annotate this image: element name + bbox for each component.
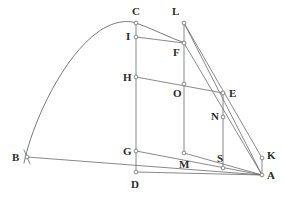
point-label-n: N xyxy=(211,111,219,122)
geometry-canvas xyxy=(0,0,285,197)
vertex-marker-b xyxy=(25,155,29,159)
point-label-k: K xyxy=(267,150,276,161)
point-label-l: L xyxy=(172,6,179,17)
vertex-marker-l xyxy=(182,21,186,25)
point-label-m: M xyxy=(179,159,189,170)
arc-layer xyxy=(24,22,185,163)
geometry-figure: ABCDEFGHIKLMNOS xyxy=(0,0,285,197)
vertex-marker-s xyxy=(221,166,225,170)
point-label-b: B xyxy=(12,152,19,163)
segments-layer xyxy=(27,23,262,175)
point-label-i: I xyxy=(126,31,130,42)
vertex-marker-h xyxy=(134,75,138,79)
point-label-g: G xyxy=(123,146,132,157)
vertex-marker-a xyxy=(260,173,264,177)
point-label-h: H xyxy=(123,72,132,83)
vertex-marker-e xyxy=(221,91,225,95)
point-label-s: S xyxy=(217,153,223,164)
vertex-marker-m xyxy=(182,151,186,155)
vertex-marker-g xyxy=(134,149,138,153)
vertex-marker-k xyxy=(260,156,264,160)
parabolic-arc-B-C-F xyxy=(24,22,185,163)
point-label-d: D xyxy=(131,179,139,190)
segment-G-A xyxy=(136,151,262,175)
vertex-marker-o xyxy=(182,82,186,86)
point-label-e: E xyxy=(229,88,236,99)
point-label-a: A xyxy=(267,170,275,181)
point-label-f: F xyxy=(173,47,180,58)
vertex-marker-n xyxy=(221,115,225,119)
point-label-c: C xyxy=(132,6,140,17)
point-label-o: O xyxy=(173,88,182,99)
vertex-marker-i xyxy=(134,35,138,39)
vertex-marker-c xyxy=(134,21,138,25)
vertex-marker-d xyxy=(134,170,138,174)
vertex-marker-f xyxy=(182,41,186,45)
